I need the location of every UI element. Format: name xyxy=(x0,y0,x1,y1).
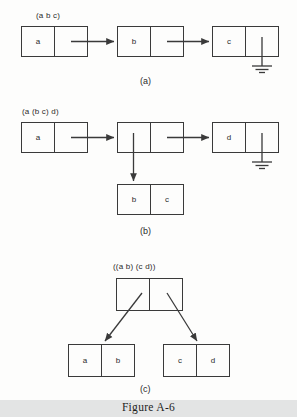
panel-a-node-2-cdr xyxy=(150,27,183,56)
panel-a-node-1: a xyxy=(21,26,88,57)
panel-c-right-sublist-car: c xyxy=(164,345,196,376)
panel-c-subcaption: (c) xyxy=(140,384,151,394)
panel-a-list-label: (a b c) xyxy=(36,11,60,20)
panel-a-node-3-car: c xyxy=(213,27,245,56)
panel-b-sublist-cdr: c xyxy=(150,185,183,214)
panel-a-node-1-car: a xyxy=(22,27,54,56)
panel-c-right-sublist: c d xyxy=(163,344,230,377)
panel-c-left-sublist-car: a xyxy=(69,345,101,376)
panel-c-root-car xyxy=(117,279,149,310)
panel-a-node-2-car: b xyxy=(118,27,150,56)
panel-b-node-1: a xyxy=(21,122,88,153)
panel-c-root-node xyxy=(116,278,183,311)
figure-page: (a b c) a b c (a) (a (b c) d) a d xyxy=(0,0,297,417)
panel-a-node-2: b xyxy=(117,26,184,57)
panel-c-right-sublist-cdr: d xyxy=(196,345,229,376)
panel-b-node-3-car: d xyxy=(213,123,245,152)
panel-a-node-3-cdr xyxy=(245,27,278,56)
panel-b-sublist-node: b c xyxy=(117,184,184,215)
panel-a-node-3: c xyxy=(212,26,279,57)
panel-b-sublist-car: b xyxy=(118,185,150,214)
panel-b-node-1-cdr xyxy=(54,123,87,152)
panel-b-node-2-cdr xyxy=(150,123,183,152)
panel-b-node-1-car: a xyxy=(22,123,54,152)
panel-b-node-3-cdr xyxy=(245,123,278,152)
panel-b-node-2-car xyxy=(118,123,150,152)
panel-b-node-3: d xyxy=(212,122,279,153)
figure-caption: Figure A-6 xyxy=(0,401,297,413)
panel-c-list-label: ((a b) (c d)) xyxy=(113,262,156,271)
panel-a-subcaption: (a) xyxy=(140,76,151,86)
panel-c-left-sublist-cdr: b xyxy=(101,345,134,376)
panel-a-node-1-cdr xyxy=(54,27,87,56)
panel-b-subcaption: (b) xyxy=(140,226,151,236)
panel-c-left-sublist: a b xyxy=(68,344,135,377)
panel-c-root-cdr xyxy=(149,279,182,310)
panel-b-list-label: (a (b c) d) xyxy=(22,107,59,116)
panel-b-node-2 xyxy=(117,122,184,153)
